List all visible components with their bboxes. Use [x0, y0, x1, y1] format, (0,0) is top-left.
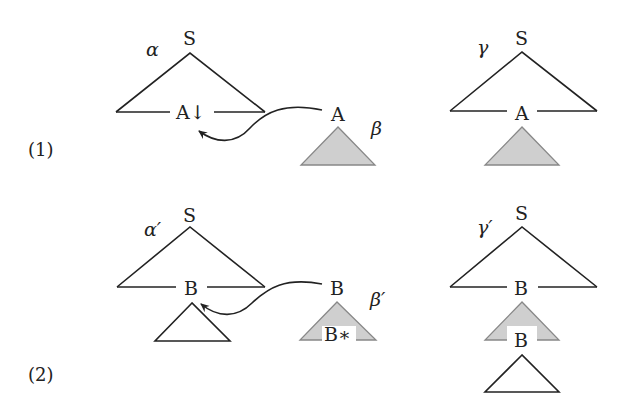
- tree-alpha-subst-node: A↓: [175, 101, 206, 123]
- tree-gamma-prime-foot: B: [514, 329, 528, 351]
- tree-alpha-label: α: [146, 38, 159, 60]
- tree-alpha-prime: α′ S B: [117, 204, 265, 341]
- tree-gamma: γ S A: [450, 27, 597, 165]
- tree-alpha-prime-root: S: [183, 204, 196, 226]
- tree-gamma-prime: γ′ S B B: [450, 202, 597, 392]
- tree-gamma-subtree: [485, 127, 559, 165]
- tree-gamma-prime-subtree: [485, 355, 559, 392]
- tree-gamma-root: S: [515, 27, 528, 49]
- tree-alpha-prime-adj-node: B: [184, 277, 198, 299]
- tree-diagram: (1) α S A↓ A β γ S A (2) α′ S B: [0, 0, 626, 411]
- tree-gamma-prime-label: γ′: [477, 216, 493, 238]
- row-1-number: (1): [28, 139, 54, 160]
- tree-beta-prime: B B∗ β′: [300, 277, 386, 345]
- tree-gamma-prime-node: B: [514, 277, 528, 299]
- tree-alpha-root: S: [183, 27, 196, 49]
- tree-gamma-node: A: [514, 102, 529, 124]
- tree-beta: A β: [301, 103, 382, 165]
- tree-beta-prime-label: β′: [369, 288, 386, 310]
- tree-gamma-label: γ: [477, 36, 489, 58]
- tree-alpha-prime-label: α′: [144, 218, 162, 240]
- tree-alpha-prime-subtree: [155, 303, 230, 341]
- tree-beta-root: A: [330, 103, 345, 125]
- tree-alpha: α S A↓: [116, 27, 265, 123]
- row-2-number: (2): [28, 364, 54, 385]
- tree-beta-prime-root: B: [330, 277, 344, 299]
- tree-beta-prime-foot: B∗: [324, 323, 351, 345]
- tree-beta-triangle: [301, 127, 375, 165]
- tree-beta-label: β: [370, 117, 382, 139]
- tree-gamma-prime-root: S: [515, 202, 528, 224]
